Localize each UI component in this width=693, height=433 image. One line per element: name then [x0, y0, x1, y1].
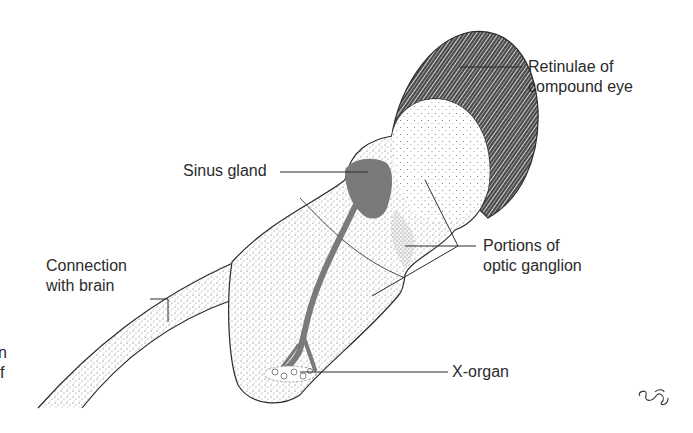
label-sinus-gland: Sinus gland — [183, 161, 267, 181]
label-optic-ganglion-line1: Portions of — [483, 236, 582, 256]
label-optic-ganglion-line2: optic ganglion — [483, 256, 582, 276]
label-connection-with-brain: Connection with brain — [46, 256, 127, 296]
label-retinulae: Retinulae of compound eye — [528, 57, 633, 97]
artist-signature — [639, 390, 668, 405]
label-retinulae-line1: Retinulae of — [528, 57, 633, 77]
label-connection-line2: with brain — [46, 276, 127, 296]
label-connection-line1: Connection — [46, 256, 127, 276]
x-organ — [264, 366, 316, 382]
cropped-text-fragment-2: f — [0, 363, 4, 383]
cropped-text-fragment-1: n — [0, 343, 7, 363]
label-x-organ: X-organ — [452, 362, 509, 382]
label-optic-ganglion: Portions of optic ganglion — [483, 236, 582, 276]
label-retinulae-line2: compound eye — [528, 77, 633, 97]
